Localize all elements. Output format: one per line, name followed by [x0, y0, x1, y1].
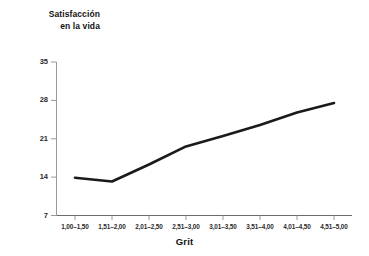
y-tick-label: 21 [22, 134, 48, 143]
data-series-line [75, 103, 334, 181]
chart-container: Satisfacción en la vida 714212835 1,00–1… [0, 0, 369, 256]
y-tick-label: 14 [22, 172, 48, 181]
y-tick-label: 28 [22, 95, 48, 104]
x-axis-title: Grit [0, 236, 369, 247]
plot-area [0, 0, 369, 256]
y-tick-marks [51, 62, 57, 216]
x-tick-marks [75, 216, 334, 221]
y-tick-label: 35 [22, 57, 48, 66]
y-tick-label: 7 [22, 211, 48, 220]
x-tick-label: 4,51–5,00 [310, 223, 358, 230]
